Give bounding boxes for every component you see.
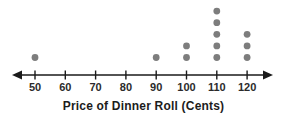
data-dot <box>32 54 39 61</box>
tick-label: 70 <box>89 81 101 93</box>
tick-label: 90 <box>150 81 162 93</box>
data-dot <box>213 54 220 61</box>
data-dot <box>244 31 251 38</box>
tick-label: 100 <box>177 81 195 93</box>
data-dot <box>213 8 220 15</box>
tick-label: 80 <box>120 81 132 93</box>
data-dot <box>153 54 160 61</box>
tick-label: 120 <box>238 81 256 93</box>
data-dot <box>183 43 190 50</box>
data-dot <box>244 54 251 61</box>
data-dot <box>213 31 220 38</box>
data-dot <box>213 19 220 26</box>
tick-label: 60 <box>59 81 71 93</box>
dot-plot-figure: 5060708090100110120 Price of Dinner Roll… <box>0 0 287 120</box>
tick-label: 50 <box>29 81 41 93</box>
axis-arrow-right-icon <box>263 71 273 80</box>
data-dot <box>183 54 190 61</box>
data-dot <box>213 43 220 50</box>
data-dot <box>244 43 251 50</box>
x-axis-title: Price of Dinner Roll (Cents) <box>0 99 287 113</box>
tick-label: 110 <box>208 81 226 93</box>
axis-arrow-left-icon <box>12 71 22 80</box>
